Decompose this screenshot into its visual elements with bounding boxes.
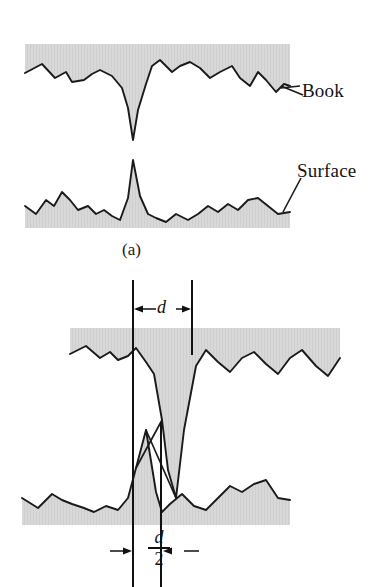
- panel-a-caption: (a): [122, 240, 141, 260]
- label-surface: Surface: [297, 160, 356, 182]
- dimension-label-d-over-2: d 2: [146, 528, 172, 568]
- dimension-label-d: d: [157, 297, 166, 318]
- label-book: Book: [302, 80, 344, 102]
- fraction-numerator: d: [146, 528, 172, 546]
- fraction-denominator: 2: [146, 550, 172, 568]
